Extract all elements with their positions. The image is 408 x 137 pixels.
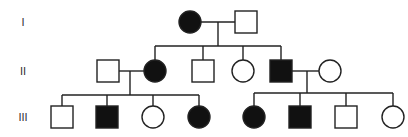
unaffected-female-circle [232,60,254,82]
individuals [51,11,404,128]
unaffected-male-square [97,60,119,82]
affected-male-square [96,106,118,128]
unaffected-male-square [51,106,73,128]
generation-label: I [21,16,24,28]
affected-female-circle [243,106,265,128]
pedigree-chart: IIIIII [0,0,408,137]
affected-female-circle [188,106,210,128]
generation-label: III [18,111,27,123]
unaffected-male-square [235,11,257,33]
unaffected-male-square [335,106,357,128]
unaffected-female-circle [382,106,404,128]
affected-female-circle [144,60,166,82]
generation-label: II [20,65,26,77]
affected-male-square [270,60,292,82]
unaffected-male-square [192,60,214,82]
unaffected-female-circle [319,60,341,82]
affected-male-square [289,106,311,128]
unaffected-female-circle [142,106,164,128]
affected-female-circle [179,11,201,33]
generation-labels: IIIIII [18,16,27,123]
